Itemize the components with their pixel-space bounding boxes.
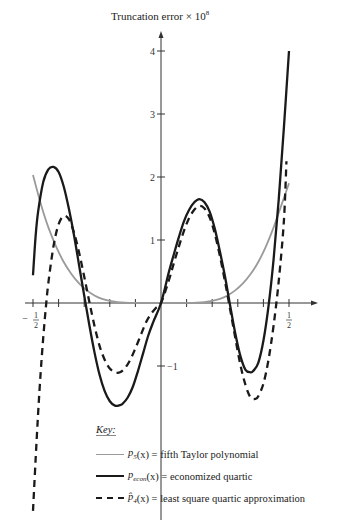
y-axis-title: Truncation error × 108 <box>111 9 209 22</box>
legend-swatch <box>96 497 124 499</box>
legend-label-symbol: p̂4 <box>128 491 137 505</box>
x-tick-label-numerator: 1 <box>34 311 38 320</box>
legend-label-text: (x) = fifth Taylor polynomial <box>137 449 259 460</box>
legend-label-symbol: pecon <box>128 469 146 483</box>
tick-labels: −11234−1212 <box>22 46 292 372</box>
legend-label-symbol: p5 <box>128 447 137 461</box>
x-tick-label-denominator: 2 <box>34 321 38 330</box>
y-tick-label: −1 <box>167 361 178 372</box>
y-tick-label: 1 <box>150 235 155 246</box>
legend-item-p5: p5(x) = fifth Taylor polynomial <box>96 443 305 465</box>
legend-swatch <box>96 454 124 455</box>
legend-label-text: (x) = economized quartic <box>146 471 252 482</box>
y-axis-title-text: Truncation error × 10 <box>111 10 206 22</box>
legend-item-p-econ: pecon(x) = economized quartic <box>96 465 305 487</box>
x-tick-label-denominator: 2 <box>287 321 291 330</box>
y-tick-label: 4 <box>150 46 155 57</box>
legend-item-p4-hat: p̂4(x) = least square quartic approximat… <box>96 487 305 509</box>
x-tick-label-sign: − <box>22 313 28 324</box>
legend: Key: p5(x) = fifth Taylor polynomialpeco… <box>96 424 305 509</box>
y-tick-label: 2 <box>150 172 155 183</box>
y-axis-arrow-icon <box>159 31 164 38</box>
legend-rows: p5(x) = fifth Taylor polynomialpecon(x) … <box>96 443 305 509</box>
legend-title: Key: <box>96 424 116 436</box>
y-axis-title-exponent: 8 <box>206 9 210 17</box>
x-tick-label: −12 <box>22 311 39 330</box>
x-axis-arrow-icon <box>311 301 318 306</box>
legend-label-text: (x) = least square quartic approximation <box>137 493 305 504</box>
legend-swatch <box>96 475 124 477</box>
x-tick-label: 12 <box>286 311 292 330</box>
y-tick-label: 3 <box>150 109 155 120</box>
x-tick-label-numerator: 1 <box>287 311 291 320</box>
